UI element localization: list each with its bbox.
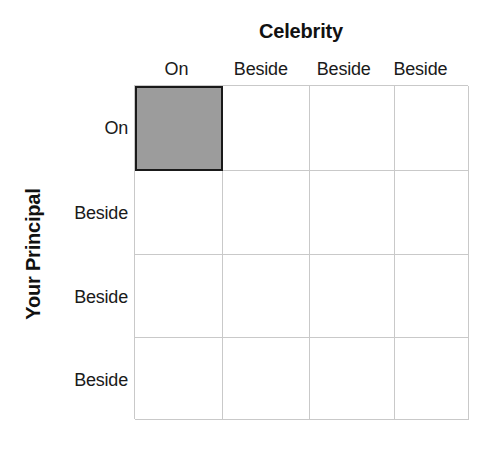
matrix-grid	[134, 85, 468, 419]
row-header-3: Beside	[0, 369, 128, 391]
grid-cell-r0-c3[interactable]	[395, 86, 469, 171]
grid-cell-r1-c0[interactable]	[135, 171, 223, 255]
grid-cell-r3-c2[interactable]	[310, 338, 395, 420]
grid-cell-r1-c2[interactable]	[310, 171, 395, 255]
grid-cell-r1-c1[interactable]	[223, 171, 310, 255]
grid-cell-r2-c2[interactable]	[310, 255, 395, 338]
grid-cell-r3-c3[interactable]	[395, 338, 469, 420]
column-header-2: Beside	[303, 57, 385, 83]
grid-cell-r3-c1[interactable]	[223, 338, 310, 420]
row-header-0: On	[0, 117, 128, 139]
grid-cell-r0-c1[interactable]	[223, 86, 310, 171]
column-header-row: On Beside Beside Beside	[134, 57, 468, 83]
row-header-column: On Beside Beside Beside	[0, 85, 128, 419]
grid-cell-r1-c3[interactable]	[395, 171, 469, 255]
grid-cell-r3-c0[interactable]	[135, 338, 223, 420]
grid-cell-r2-c1[interactable]	[223, 255, 310, 338]
column-header-3: Beside	[385, 57, 468, 83]
grid-cell-r2-c3[interactable]	[395, 255, 469, 338]
grid-cell-r0-c2[interactable]	[310, 86, 395, 171]
column-header-0: On	[134, 57, 219, 83]
column-header-1: Beside	[219, 57, 303, 83]
row-header-2: Beside	[0, 286, 128, 308]
row-header-1: Beside	[0, 202, 128, 224]
column-axis-title: Celebrity	[134, 19, 468, 43]
grid-cell-r0-c0[interactable]	[135, 86, 223, 171]
grid-cell-r2-c0[interactable]	[135, 255, 223, 338]
